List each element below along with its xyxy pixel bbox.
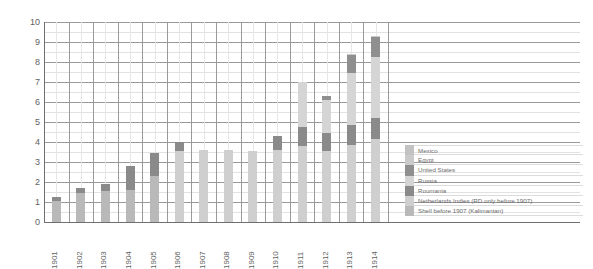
x-tick-label: 1910	[272, 229, 280, 269]
x-tick-label: 1906	[174, 229, 182, 269]
legend-label: Shell before 1907 (Kalimantan)	[414, 206, 583, 216]
bar-segment	[76, 193, 85, 222]
chart-legend: MexicoEgyptUnited StatesRussiaRoumaniaNe…	[405, 145, 583, 216]
bar-column	[101, 22, 110, 222]
x-tick-label: 1913	[346, 229, 354, 269]
stacked-bar-chart: 012345678910 190119021903190419051906190…	[0, 0, 593, 269]
x-tick-label: 1902	[76, 229, 84, 269]
bar-segment	[248, 151, 257, 222]
bar-segment	[150, 153, 159, 176]
bar-segment	[298, 127, 307, 146]
bar-column	[150, 22, 159, 222]
bar-segment	[175, 151, 184, 222]
x-tick-label: 1905	[150, 229, 158, 269]
bar-segment	[322, 100, 331, 133]
legend-item[interactable]: United States	[405, 165, 583, 175]
bar-column	[322, 22, 331, 222]
legend-item[interactable]: Shell before 1907 (Kalimantan)	[405, 206, 583, 216]
bar-column	[76, 22, 85, 222]
x-tick-label: 1908	[223, 229, 231, 269]
bar-segment	[150, 176, 159, 222]
legend-swatch	[405, 165, 414, 175]
bar-column	[224, 22, 233, 222]
bar-segment	[298, 146, 307, 222]
bar-segment	[347, 54, 356, 55]
bar-column	[248, 22, 257, 222]
bar-segment	[101, 184, 110, 191]
bar-segment	[199, 150, 208, 222]
legend-swatch	[405, 145, 414, 155]
bar-column	[273, 22, 282, 222]
y-tick-label: 3	[4, 158, 40, 167]
bar-segment	[298, 82, 307, 127]
y-tick-label: 8	[4, 58, 40, 67]
bar-segment	[347, 73, 356, 125]
y-tick-label: 1	[4, 198, 40, 207]
bar-segment	[175, 142, 184, 151]
bar-segment	[52, 201, 61, 222]
x-tick-label: 1914	[371, 229, 379, 269]
x-tick-label: 1909	[248, 229, 256, 269]
x-tick-label: 1904	[125, 229, 133, 269]
x-axis-tick-labels: 1901190219031904190519061907190819091910…	[44, 224, 388, 269]
y-tick-label: 10	[4, 18, 40, 27]
bar-segment	[224, 150, 233, 222]
bar-segment	[371, 37, 380, 57]
x-tick-label: 1912	[322, 229, 330, 269]
bar-column	[199, 22, 208, 222]
bar-column	[371, 22, 380, 222]
y-tick-label: 7	[4, 78, 40, 87]
y-tick-label: 0	[4, 218, 40, 227]
bar-segment	[101, 191, 110, 222]
x-tick-label: 1911	[297, 229, 305, 269]
legend-label: Roumania	[414, 186, 583, 196]
y-axis-tick-labels: 012345678910	[0, 22, 40, 222]
bar-segment	[126, 190, 135, 222]
bar-segment	[347, 145, 356, 222]
legend-swatch	[405, 206, 414, 216]
bar-column	[175, 22, 184, 222]
bar-series-group	[44, 22, 388, 222]
y-tick-label: 6	[4, 98, 40, 107]
legend-swatch	[405, 176, 414, 186]
bar-segment	[322, 133, 331, 151]
bar-segment	[322, 151, 331, 222]
legend-label: Russia	[414, 176, 583, 186]
bar-segment	[322, 96, 331, 100]
legend-item[interactable]: Netherlands Indies (RD only before 1907)	[405, 196, 583, 206]
bar-segment	[371, 36, 380, 37]
y-tick-label: 2	[4, 178, 40, 187]
x-tick-label: 1901	[51, 229, 59, 269]
legend-label: United States	[414, 165, 583, 175]
bar-segment	[126, 166, 135, 190]
bar-column	[126, 22, 135, 222]
y-tick-label: 9	[4, 38, 40, 47]
x-axis-line	[44, 222, 580, 223]
legend-label: Mexico	[414, 145, 583, 155]
y-tick-label: 5	[4, 118, 40, 127]
bar-segment	[76, 188, 85, 193]
x-tick-label: 1907	[199, 229, 207, 269]
bar-segment	[273, 150, 282, 222]
legend-swatch	[405, 196, 414, 206]
bar-column	[347, 22, 356, 222]
bar-segment	[371, 57, 380, 118]
legend-swatch	[405, 186, 414, 196]
y-tick-label: 4	[4, 138, 40, 147]
x-tick-label: 1903	[100, 229, 108, 269]
bar-segment	[52, 197, 61, 201]
legend-item[interactable]: Roumania	[405, 186, 583, 196]
legend-item[interactable]: Russia	[405, 176, 583, 186]
bar-column	[52, 22, 61, 222]
legend-item[interactable]: Egypt	[405, 155, 583, 165]
legend-item[interactable]: Mexico	[405, 145, 583, 155]
bar-segment	[273, 136, 282, 150]
legend-swatch	[405, 155, 414, 165]
legend-label: Netherlands Indies (RD only before 1907)	[414, 196, 583, 206]
bar-segment	[371, 118, 380, 139]
legend-label: Egypt	[414, 155, 583, 165]
bar-column	[298, 22, 307, 222]
bar-segment	[347, 125, 356, 145]
bar-segment	[371, 139, 380, 222]
bar-segment	[347, 55, 356, 73]
